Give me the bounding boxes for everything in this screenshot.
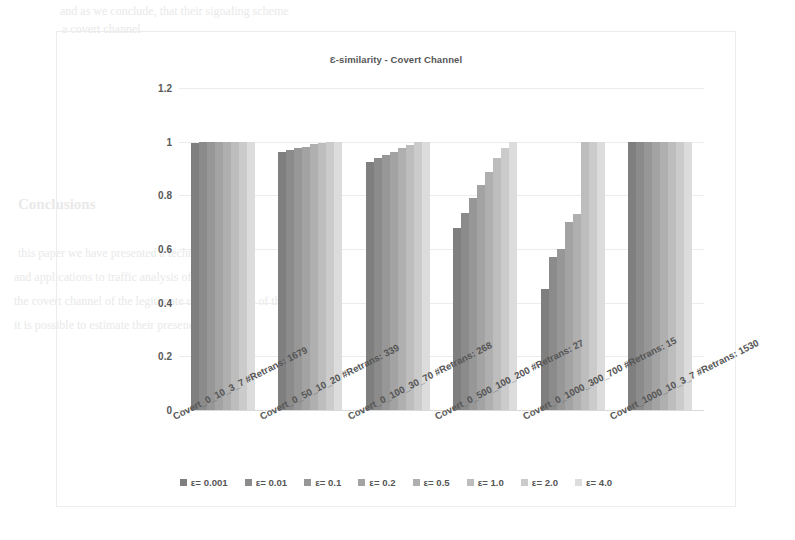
bar[interactable] [652, 142, 660, 410]
bar[interactable] [366, 162, 374, 410]
bar[interactable] [557, 249, 565, 410]
bar[interactable] [278, 152, 286, 410]
legend-item[interactable]: ε= 0.01 [245, 477, 288, 488]
legend-item[interactable]: ε= 2.0 [521, 477, 558, 488]
bar[interactable] [231, 142, 239, 410]
bar[interactable] [215, 142, 223, 410]
bar[interactable] [644, 142, 652, 410]
legend-item[interactable]: ε= 0.5 [413, 477, 450, 488]
bar[interactable] [493, 158, 501, 410]
bar[interactable] [501, 148, 509, 410]
bar[interactable] [398, 148, 406, 410]
legend-label: ε= 1.0 [478, 477, 504, 488]
bar[interactable] [191, 143, 199, 410]
legend-swatch-icon [180, 479, 187, 486]
bar[interactable] [469, 198, 477, 410]
page-bleed-line-1: and as we conclude, that their signaling… [60, 4, 289, 19]
bar[interactable] [660, 142, 668, 410]
legend-item[interactable]: ε= 0.1 [304, 477, 341, 488]
legend-swatch-icon [575, 479, 582, 486]
legend-label: ε= 0.5 [424, 477, 450, 488]
bar[interactable] [477, 185, 485, 410]
bar[interactable] [676, 142, 684, 410]
bar[interactable] [374, 158, 382, 410]
bar[interactable] [541, 289, 549, 410]
bar[interactable] [581, 142, 589, 410]
bar[interactable] [326, 142, 334, 410]
legend-label: ε= 2.0 [532, 477, 558, 488]
bar[interactable] [199, 142, 207, 410]
bar[interactable] [310, 144, 318, 410]
x-axis-labels: Covert_0_10_3_7 #Retrans: 1679Covert_0_5… [179, 412, 704, 508]
chart-legend: ε= 0.001ε= 0.01ε= 0.1ε= 0.2ε= 0.5ε= 1.0ε… [57, 477, 735, 488]
bar[interactable] [628, 142, 636, 410]
legend-swatch-icon [467, 479, 474, 486]
y-axis-tick-label: 0.2 [158, 351, 172, 362]
y-axis-tick-label: 0.8 [158, 190, 172, 201]
bar[interactable] [382, 155, 390, 410]
bar[interactable] [406, 145, 414, 410]
bar[interactable] [294, 148, 302, 410]
bar[interactable] [453, 228, 461, 410]
bar[interactable] [318, 143, 326, 410]
bar[interactable] [239, 142, 247, 410]
bar[interactable] [573, 214, 581, 410]
legend-label: ε= 0.1 [315, 477, 341, 488]
bar[interactable] [636, 142, 644, 410]
bar[interactable] [223, 142, 231, 410]
legend-swatch-icon [521, 479, 528, 486]
legend-swatch-icon [304, 479, 311, 486]
legend-swatch-icon [413, 479, 420, 486]
bar[interactable] [414, 142, 422, 410]
legend-item[interactable]: ε= 0.001 [180, 477, 228, 488]
bar-group [179, 88, 267, 410]
bar[interactable] [461, 213, 469, 410]
legend-label: ε= 4.0 [586, 477, 612, 488]
bar[interactable] [302, 147, 310, 411]
y-axis-tick-label: 0.4 [158, 297, 172, 308]
chart-container: Ɛ-similarity - Covert Channel 1.210.80.6… [56, 31, 736, 507]
bar[interactable] [668, 142, 676, 410]
bar[interactable] [485, 172, 493, 410]
legend-item[interactable]: ε= 1.0 [467, 477, 504, 488]
y-axis-tick-label: 1.2 [158, 83, 172, 94]
legend-swatch-icon [358, 479, 365, 486]
legend-label: ε= 0.2 [369, 477, 395, 488]
legend-label: ε= 0.01 [256, 477, 288, 488]
y-axis-tick-label: 0.6 [158, 244, 172, 255]
legend-item[interactable]: ε= 0.2 [358, 477, 395, 488]
chart-title: Ɛ-similarity - Covert Channel [57, 54, 735, 65]
bar[interactable] [589, 142, 597, 410]
bar[interactable] [549, 257, 557, 410]
bar[interactable] [565, 222, 573, 410]
legend-swatch-icon [245, 479, 252, 486]
bar[interactable] [286, 150, 294, 410]
y-axis-tick-label: 1 [166, 136, 172, 147]
legend-label: ε= 0.001 [191, 477, 228, 488]
bar[interactable] [207, 142, 215, 410]
bar[interactable] [390, 152, 398, 410]
legend-item[interactable]: ε= 4.0 [575, 477, 612, 488]
